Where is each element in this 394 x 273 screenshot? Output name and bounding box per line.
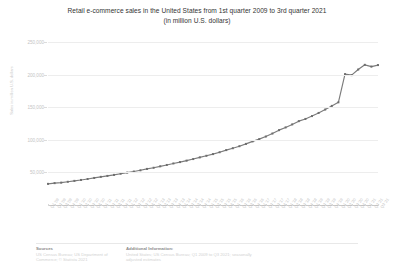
series-line (48, 65, 378, 184)
data-point-marker (192, 158, 194, 160)
y-axis-tick-label: 250,000 (0, 40, 44, 45)
line-series (48, 42, 378, 205)
data-point-marker (357, 69, 359, 71)
gridline (48, 42, 378, 43)
data-point-marker (100, 176, 102, 178)
footer-divider (36, 243, 358, 244)
y-axis-tick-mark (44, 42, 47, 43)
data-point-marker (186, 160, 188, 162)
data-point-marker (153, 167, 155, 169)
data-point-marker (370, 66, 372, 68)
data-point-marker (60, 182, 62, 184)
y-axis: 50,000100,000150,000200,000250,000 (0, 42, 44, 205)
data-point-marker (106, 175, 108, 177)
data-point-marker (245, 143, 247, 145)
data-point-marker (54, 182, 56, 184)
data-point-marker (291, 123, 293, 125)
data-point-marker (232, 147, 234, 149)
data-point-marker (337, 101, 339, 103)
data-point-marker (285, 126, 287, 128)
sources-text: US Census Bureau; US Department of Comme… (36, 252, 121, 263)
chart-page: Retail e-commerce sales in the United St… (0, 0, 394, 273)
data-point-marker (93, 177, 95, 179)
data-point-marker (219, 151, 221, 153)
x-axis-labels: Q1 '09Q2 '09Q3 '09Q4 '09Q1 '10Q2 '10Q3 '… (48, 206, 378, 232)
data-point-marker (225, 149, 227, 151)
plot-area (48, 42, 378, 205)
data-point-marker (318, 112, 320, 114)
page-subtitle: (in million U.S. dollars) (0, 16, 394, 26)
data-point-marker (311, 115, 313, 117)
data-point-marker (87, 178, 89, 180)
data-point-marker (139, 169, 141, 171)
data-point-marker (212, 153, 214, 155)
y-axis-tick-mark (44, 172, 47, 173)
data-point-marker (172, 162, 174, 164)
data-point-marker (67, 181, 69, 183)
y-axis-tick-mark (44, 140, 47, 141)
data-point-marker (73, 180, 75, 182)
additional-info-block: Additional Information: United States; U… (126, 246, 256, 263)
y-axis-tick-label: 100,000 (0, 137, 44, 142)
y-axis-tick-mark (44, 107, 47, 108)
data-point-marker (199, 156, 201, 158)
y-axis-title: Sales in million U.S. dollars (9, 36, 14, 146)
additional-info-text: United States; US Census Bureau; Q1 2009… (126, 252, 256, 263)
data-point-marker (159, 165, 161, 167)
data-point-marker (298, 120, 300, 122)
data-point-marker (113, 174, 115, 176)
data-point-marker (304, 118, 306, 120)
gridline (48, 107, 378, 108)
data-point-marker (265, 136, 267, 138)
y-axis-tick-label: 150,000 (0, 105, 44, 110)
data-point-marker (47, 183, 49, 185)
data-point-marker (271, 133, 273, 135)
sources-block: Sources US Census Bureau; US Department … (36, 246, 121, 263)
chart-title-block: Retail e-commerce sales in the United St… (0, 6, 394, 26)
data-point-marker (324, 109, 326, 111)
data-point-marker (205, 155, 207, 157)
data-point-marker (238, 145, 240, 147)
gridline (48, 75, 378, 76)
data-point-marker (179, 161, 181, 163)
data-point-marker (278, 129, 280, 131)
data-point-marker (166, 164, 168, 166)
gridline (48, 172, 378, 173)
page-title: Retail e-commerce sales in the United St… (0, 6, 394, 16)
data-point-marker (146, 168, 148, 170)
data-point-marker (80, 179, 82, 181)
y-axis-tick-label: 200,000 (0, 72, 44, 77)
y-axis-tick-mark (44, 75, 47, 76)
gridline (48, 140, 378, 141)
data-point-marker (364, 64, 366, 66)
y-axis-tick-label: 50,000 (0, 170, 44, 175)
data-point-marker (377, 64, 379, 66)
